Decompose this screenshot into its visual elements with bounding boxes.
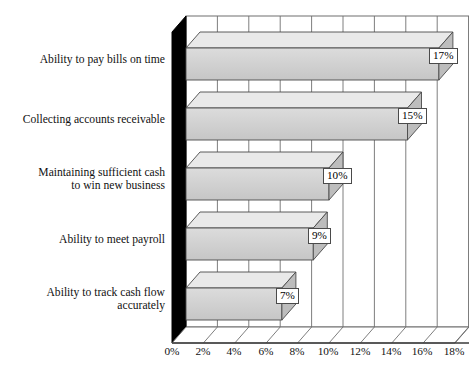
bar-top-3	[186, 212, 327, 228]
category-label-0: Ability to pay bills on time	[0, 53, 165, 66]
bar-top-1	[186, 92, 422, 108]
category-label-4-line-0: Ability to track cash flow	[0, 286, 165, 299]
value-label-0: 17%	[429, 48, 458, 64]
bar-group-1	[186, 92, 422, 140]
bar-group-2	[186, 152, 343, 200]
category-label-2-line-0: Maintaining sufficient cash	[0, 166, 165, 179]
category-label-3: Ability to meet payroll	[0, 233, 165, 246]
x-tick-label-8: 16%	[405, 345, 439, 357]
bar-top-4	[186, 272, 296, 288]
value-label-3: 9%	[308, 228, 331, 244]
category-label-1: Collecting accounts receivable	[0, 113, 165, 126]
bar-group-3	[186, 212, 327, 260]
x-tick-label-7: 14%	[374, 345, 408, 357]
category-label-1-line-0: Collecting accounts receivable	[0, 113, 165, 126]
x-tick-label-0: 0%	[155, 345, 189, 357]
floor-plane	[172, 327, 469, 343]
bar-face-4	[186, 288, 282, 320]
category-label-0-line-0: Ability to pay bills on time	[0, 53, 165, 66]
bar-top-2	[186, 152, 343, 168]
value-label-1: 15%	[398, 108, 427, 124]
x-tick-label-3: 6%	[249, 345, 283, 357]
bar-group-0	[186, 32, 453, 80]
value-label-2: 10%	[323, 168, 352, 184]
x-tick-label-6: 12%	[343, 345, 377, 357]
value-label-4: 7%	[276, 288, 299, 304]
category-label-2: Maintaining sufficient cash to win new b…	[0, 166, 165, 193]
x-tick-label-9: 18%	[437, 345, 469, 357]
bar-face-3	[186, 228, 313, 260]
category-label-4: Ability to track cash flow accurately	[0, 286, 165, 313]
x-tick-label-4: 8%	[280, 345, 314, 357]
left-side-wall	[172, 16, 186, 343]
bar-face-2	[186, 168, 329, 200]
category-label-3-line-0: Ability to meet payroll	[0, 233, 165, 246]
category-label-4-line-1: accurately	[0, 299, 165, 312]
bar-face-1	[186, 108, 408, 140]
x-tick-label-5: 10%	[311, 345, 345, 357]
category-label-2-line-1: to win new business	[0, 179, 165, 192]
bar-chart-3d: Ability to pay bills on time Collecting …	[0, 0, 469, 368]
bar-face-0	[186, 48, 439, 80]
x-tick-label-1: 2%	[186, 345, 220, 357]
x-tick-label-2: 4%	[217, 345, 251, 357]
bar-top-0	[186, 32, 453, 48]
